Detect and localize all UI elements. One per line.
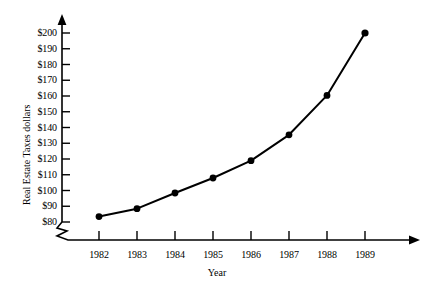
x-axis-ticks xyxy=(99,231,365,240)
y-axis-arrow-icon xyxy=(58,14,67,25)
y-axis-break-icon xyxy=(57,222,80,240)
data-point xyxy=(134,205,141,212)
x-tick-label: 1989 xyxy=(345,250,385,260)
data-point xyxy=(96,213,103,220)
y-tick-label: $80 xyxy=(14,217,57,227)
y-axis-ticks xyxy=(62,33,70,222)
data-point xyxy=(324,92,331,99)
x-tick-label: 1982 xyxy=(79,250,119,260)
x-axis-arrow-icon xyxy=(409,236,420,245)
x-tick-label: 1987 xyxy=(269,250,309,260)
data-point-markers xyxy=(96,29,369,220)
y-tick-label: $200 xyxy=(14,28,57,38)
chart-plot-area xyxy=(0,0,434,288)
x-tick-label: 1988 xyxy=(307,250,347,260)
x-axis-title: Year xyxy=(0,268,434,278)
data-point xyxy=(286,131,293,138)
chart-container: $200 $190 $180 $170 $160 $150 $140 $130 … xyxy=(0,0,434,288)
x-tick-label: 1986 xyxy=(231,250,271,260)
x-tick-label: 1985 xyxy=(193,250,233,260)
y-tick-label: $180 xyxy=(14,60,57,70)
data-point xyxy=(172,190,179,197)
data-point xyxy=(361,29,368,36)
y-tick-label: $160 xyxy=(14,91,57,101)
data-series-line xyxy=(99,33,365,217)
x-tick-label: 1984 xyxy=(155,250,195,260)
data-point xyxy=(248,157,255,164)
x-tick-label: 1983 xyxy=(117,250,157,260)
y-tick-label: $170 xyxy=(14,75,57,85)
data-point xyxy=(210,175,217,182)
y-axis-title: Real Estate Taxes dollars xyxy=(22,105,32,205)
y-tick-label: $190 xyxy=(14,44,57,54)
